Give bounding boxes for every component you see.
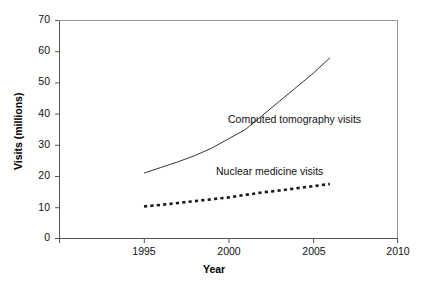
y-tick-label-40: 40 — [24, 108, 50, 119]
x-axis-title: Year — [203, 263, 225, 275]
series-line-nuclear-medicine — [144, 184, 330, 206]
y-axis-ticks — [55, 21, 59, 239]
y-tick-label-50: 50 — [24, 76, 50, 87]
plot-axes — [59, 20, 398, 239]
y-tick-label-10: 10 — [24, 202, 50, 213]
line-chart-canvas — [0, 0, 429, 288]
x-tick-label-2010: 2010 — [378, 246, 418, 257]
series-annotation-computed-tomography: Computed tomography visits — [228, 113, 361, 125]
x-tick-label-1995: 1995 — [124, 246, 164, 257]
y-axis-title: Visits (millions) — [12, 93, 24, 170]
chart-figure: 70 60 50 40 30 20 10 0 1995 2000 2005 20… — [0, 0, 429, 288]
x-tick-label-2000: 2000 — [209, 246, 249, 257]
y-tick-label-20: 20 — [24, 170, 50, 181]
y-tick-label-30: 30 — [24, 139, 50, 150]
y-tick-label-60: 60 — [24, 45, 50, 56]
x-tick-label-2005: 2005 — [294, 246, 334, 257]
y-tick-label-70: 70 — [24, 14, 50, 25]
series-annotation-nuclear-medicine: Nuclear medicine visits — [216, 165, 323, 177]
y-tick-label-0: 0 — [24, 232, 50, 243]
